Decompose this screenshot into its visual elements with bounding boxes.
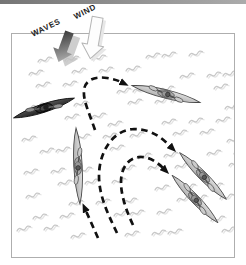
wave-mark [233, 148, 246, 156]
diagram-page: WAVES WIND [0, 0, 246, 265]
kayak-turning-diagram: WAVES WIND [0, 0, 246, 265]
paddler-head [76, 165, 81, 170]
wave-mark [240, 82, 246, 90]
wave-mark [237, 214, 246, 222]
